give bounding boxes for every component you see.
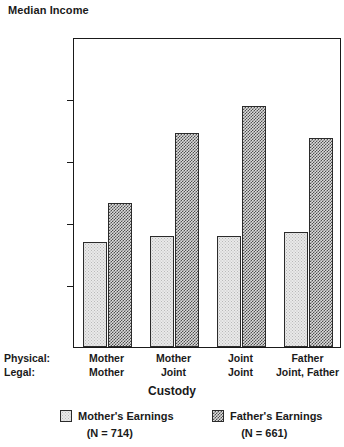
legend-swatch-mother-icon — [60, 410, 72, 422]
bar-mother-group-3 — [217, 236, 241, 347]
x-axis-label-legal-group-1: Mother — [89, 366, 124, 378]
y-axis-title: Median Income — [8, 4, 89, 16]
legend-item-fathers-earnings: Father's Earnings (N = 661) — [212, 406, 322, 439]
row-label-legal: Legal: — [4, 366, 35, 378]
bar-mother-group-4 — [284, 232, 308, 347]
y-axis-tick-mark — [67, 286, 73, 287]
plot-area — [73, 38, 341, 348]
bar-mother-group-1 — [83, 242, 107, 347]
legend-text-mother: Mother's Earnings — [78, 410, 174, 422]
bar-father-group-3 — [242, 106, 266, 347]
x-axis-label-physical-group-4: Father — [291, 352, 323, 364]
legend-text-father: Father's Earnings — [230, 410, 322, 422]
x-axis-label-legal-group-2: Joint — [161, 366, 186, 378]
x-axis-label-physical-group-1: Mother — [89, 352, 124, 364]
bar-father-group-1 — [108, 203, 132, 347]
x-axis-category-labels: Physical: Legal: MotherMotherMotherJoint… — [0, 352, 344, 382]
legend-n-mother: (N = 714) — [60, 427, 174, 439]
x-axis-label-physical-group-3: Joint — [228, 352, 253, 364]
x-axis-label-legal-group-4: Joint, Father — [276, 366, 339, 378]
legend-item-mothers-earnings: Mother's Earnings (N = 714) — [60, 406, 174, 439]
median-income-bar-chart: Median Income $50,000$40,000$30,000$20,0… — [0, 0, 344, 447]
legend-label-mothers-earnings: Mother's Earnings — [60, 410, 174, 422]
x-axis-label-physical-group-2: Mother — [156, 352, 191, 364]
legend: Mother's Earnings (N = 714) Father's Ear… — [0, 406, 344, 446]
x-axis-title: Custody — [0, 384, 344, 398]
legend-swatch-father-icon — [212, 410, 224, 422]
y-axis-tick-mark — [67, 100, 73, 101]
row-label-physical: Physical: — [4, 352, 50, 364]
bar-mother-group-2 — [150, 236, 174, 347]
plot-inner — [74, 39, 340, 347]
y-axis-tick-mark — [67, 162, 73, 163]
bar-father-group-4 — [309, 138, 333, 347]
legend-n-father: (N = 661) — [212, 427, 322, 439]
legend-label-fathers-earnings: Father's Earnings — [212, 410, 322, 422]
x-axis-label-legal-group-3: Joint — [228, 366, 253, 378]
y-axis-tick-mark — [67, 224, 73, 225]
bar-father-group-2 — [175, 133, 199, 347]
